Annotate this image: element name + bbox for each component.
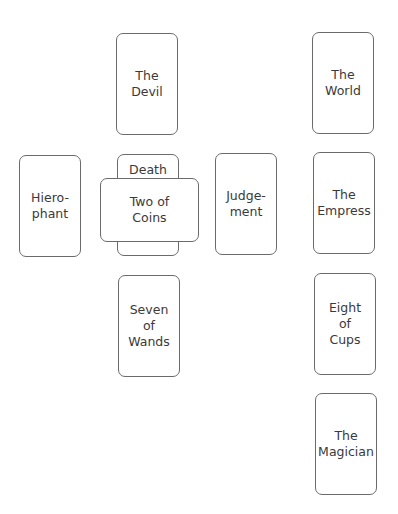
card-the-devil: The Devil <box>116 33 178 135</box>
card-the-world: The World <box>312 32 374 134</box>
card-label: The Magician <box>318 428 374 460</box>
card-two-of-coins: Two of Coins <box>100 178 199 242</box>
card-label: Death <box>118 162 178 178</box>
card-label: Seven of Wands <box>128 302 170 350</box>
card-hierophant: Hiero- phant <box>19 155 81 257</box>
card-label: Eight of Cups <box>329 300 361 348</box>
card-judgement: Judge- ment <box>215 153 277 255</box>
card-label: Two of Coins <box>130 194 169 226</box>
card-label: The Devil <box>131 68 163 100</box>
card-label: Hiero- phant <box>31 190 69 222</box>
card-the-empress: The Empress <box>313 152 375 254</box>
card-label: The Empress <box>317 187 371 219</box>
card-label: Judge- ment <box>226 188 266 220</box>
card-eight-of-cups: Eight of Cups <box>314 273 376 375</box>
card-the-magician: The Magician <box>315 393 377 495</box>
card-seven-of-wands: Seven of Wands <box>118 275 180 377</box>
card-label: The World <box>325 67 361 99</box>
